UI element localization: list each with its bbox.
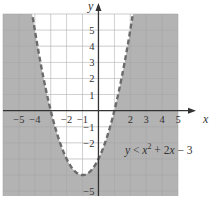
y-tick-label: 1 [89, 90, 94, 101]
y-tick-label: 2 [89, 73, 94, 84]
x-tick-label: 3 [144, 114, 149, 125]
y-axis-arrow [95, 3, 101, 11]
y-axis-label: y [87, 0, 94, 13]
x-tick-label: −2 [61, 114, 72, 125]
y-tick-label: −2 [83, 138, 94, 149]
y-tick-label: −1 [83, 122, 94, 133]
annotation-plus: + 2 [151, 144, 169, 156]
x-tick-label: 2 [128, 114, 133, 125]
y-tick-label: 5 [89, 25, 94, 36]
annotation-op: < [130, 144, 142, 156]
inequality-annotation: y < x2 + 2x − 3 [124, 142, 193, 157]
y-tick-label: −5 [83, 186, 94, 197]
annotation-tail: − 3 [175, 144, 193, 156]
x-tick-label: −4 [29, 114, 41, 125]
x-axis-arrow [188, 108, 196, 114]
x-tick-label: 4 [159, 114, 165, 125]
y-tick-label: 3 [89, 57, 94, 68]
y-tick-label: 4 [89, 41, 95, 52]
inequality-graph: −5−4−2−1234554321−1−2−5 x y y < x2 + 2x … [0, 0, 212, 219]
x-tick-label: −5 [13, 114, 24, 125]
x-axis-label: x [202, 112, 209, 126]
x-tick-label: 5 [175, 114, 180, 125]
